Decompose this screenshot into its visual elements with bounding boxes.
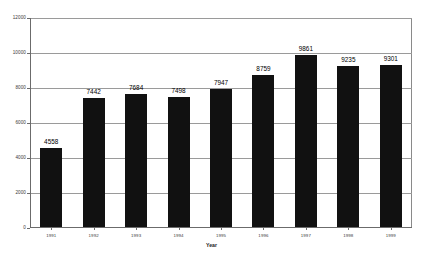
bar <box>40 148 62 228</box>
bar-value-label: 9235 <box>328 57 368 63</box>
x-axis-tick-label: 1992 <box>74 234 114 238</box>
bar <box>210 89 232 228</box>
y-axis-tick-label: 0 <box>0 226 26 231</box>
bar <box>125 94 147 228</box>
y-axis-tick-label: 10000 <box>0 51 26 56</box>
plot-area <box>30 18 412 228</box>
x-axis-tick-mark <box>51 227 52 230</box>
x-axis-tick-mark <box>306 227 307 230</box>
x-axis-tick-label: 1998 <box>328 234 368 238</box>
x-axis-tick-mark <box>179 227 180 230</box>
bar <box>252 75 274 228</box>
bar-value-label: 9301 <box>371 56 411 62</box>
y-axis-tick-label: 2000 <box>0 191 26 196</box>
bar <box>295 55 317 228</box>
x-axis-tick-mark <box>391 227 392 230</box>
x-axis-tick-label: 1993 <box>116 234 156 238</box>
x-axis-tick-label: 1991 <box>31 234 71 238</box>
bar-value-label: 8759 <box>243 66 283 72</box>
x-axis-tick-mark <box>136 227 137 230</box>
bar <box>168 97 190 228</box>
bar-chart: 020004000600080001000012000 199119921993… <box>0 0 423 260</box>
bar <box>83 98 105 228</box>
y-axis-tick-mark <box>27 228 30 229</box>
y-axis-line <box>30 18 31 228</box>
x-axis-tick-label: 1999 <box>371 234 411 238</box>
y-axis-tick-label: 8000 <box>0 86 26 91</box>
y-axis-tick-label: 4000 <box>0 156 26 161</box>
x-axis-tick-label: 1995 <box>201 234 241 238</box>
x-axis-tick-label: 1996 <box>243 234 283 238</box>
x-axis-tick-mark <box>221 227 222 230</box>
gridline <box>30 18 412 19</box>
y-axis-tick-mark <box>27 158 30 159</box>
bar <box>337 66 359 228</box>
gridline <box>30 53 412 54</box>
bar-value-label: 9861 <box>286 46 326 52</box>
x-axis-tick-label: 1994 <box>159 234 199 238</box>
y-axis-tick-mark <box>27 193 30 194</box>
y-axis-tick-mark <box>27 123 30 124</box>
x-axis-tick-label: 1997 <box>286 234 326 238</box>
x-axis-title: Year <box>0 243 423 248</box>
x-axis-tick-mark <box>94 227 95 230</box>
bar-value-label: 7442 <box>74 89 114 95</box>
bar-value-label: 7498 <box>159 88 199 94</box>
y-axis-tick-mark <box>27 18 30 19</box>
x-axis-tick-mark <box>263 227 264 230</box>
x-axis-tick-mark <box>348 227 349 230</box>
bar-value-label: 4558 <box>31 139 71 145</box>
y-axis-tick-label: 12000 <box>0 16 26 21</box>
y-axis-tick-label: 6000 <box>0 121 26 126</box>
bar-value-label: 7947 <box>201 80 241 86</box>
y-axis-tick-mark <box>27 88 30 89</box>
bar <box>380 65 402 228</box>
bar-value-label: 7684 <box>116 85 156 91</box>
y-axis-tick-mark <box>27 53 30 54</box>
